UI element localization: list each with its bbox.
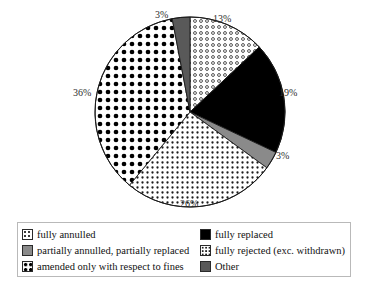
- pie-value-label-label-13: 13%: [213, 13, 231, 24]
- legend-swatch-fully-annulled: [22, 229, 33, 240]
- pie-chart-svg: [0, 0, 374, 215]
- legend-label-fully-replaced: fully replaced: [215, 229, 273, 240]
- legend-swatch-amended-only-with-respect-to-fines: [22, 261, 33, 272]
- legend-item-other[interactable]: Other: [200, 258, 348, 274]
- legend-label-amended-only-with-respect-to-fines: amended only with respect to fines: [37, 261, 184, 272]
- legend-swatch-fully-replaced: [200, 229, 211, 240]
- legend-label-fully-annulled: fully annulled: [37, 229, 96, 240]
- legend-items-grid: fully annulledfully replacedpartially an…: [22, 226, 348, 274]
- legend-label-partially-annulled-partially-replaced: partially annulled, partially replaced: [37, 245, 189, 256]
- pie-value-label-label-19: 19%: [279, 87, 297, 98]
- legend-item-fully-replaced[interactable]: fully replaced: [200, 226, 348, 242]
- legend-swatch-fully-rejected: [200, 245, 211, 256]
- pie-chart-figure: 13%19%3%26%36%3% fully annulledfully rep…: [0, 0, 374, 288]
- pie-value-label-label-36: 36%: [73, 87, 91, 98]
- legend-swatch-other: [200, 261, 211, 272]
- legend-item-amended-only-with-respect-to-fines[interactable]: amended only with respect to fines: [22, 258, 200, 274]
- legend-item-partially-annulled-partially-replaced[interactable]: partially annulled, partially replaced: [22, 242, 200, 258]
- legend-label-other: Other: [215, 261, 239, 272]
- chart-legend: fully annulledfully replacedpartially an…: [17, 222, 351, 277]
- legend-swatch-partially-annulled-partially-replaced: [22, 245, 33, 256]
- pie-value-label-label-3-other: 3%: [155, 9, 168, 20]
- legend-label-fully-rejected: fully rejected (exc. withdrawn): [215, 245, 345, 256]
- pie-slices-group: [95, 17, 285, 207]
- pie-value-label-label-3-partial: 3%: [276, 150, 289, 161]
- pie-value-label-label-26: 26%: [180, 198, 198, 209]
- legend-item-fully-rejected[interactable]: fully rejected (exc. withdrawn): [200, 242, 348, 258]
- legend-item-fully-annulled[interactable]: fully annulled: [22, 226, 200, 242]
- pie-chart-plot-area: 13%19%3%26%36%3%: [0, 0, 374, 215]
